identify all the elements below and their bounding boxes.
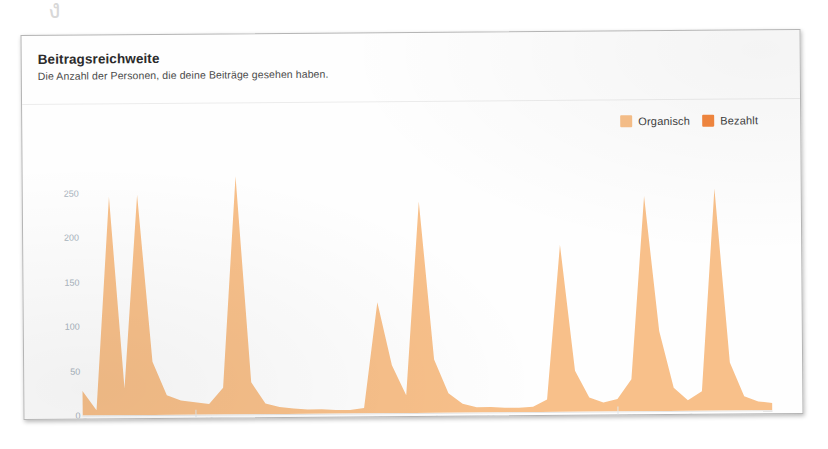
x-axis-tick-29: 23 (486, 413, 496, 419)
x-axis-tick-33: 27 (542, 413, 552, 419)
chart-header: Beitragsreichweite Die Anzahl der Person… (38, 50, 329, 82)
y-axis-tick-150: 150 (64, 277, 79, 287)
area-chart-svg (81, 170, 773, 415)
legend-swatch-icon (702, 115, 714, 127)
y-axis: 050100150200250 (45, 176, 81, 416)
scan-artifact-glyph: ง (48, 0, 62, 29)
x-axis-tick-25: 19 (429, 414, 439, 419)
x-axis-tick-47: 11 (740, 411, 750, 419)
chart-plot-area (81, 170, 773, 415)
x-axis-tick-21: 15 (373, 414, 383, 419)
y-axis-tick-100: 100 (65, 322, 80, 332)
month-separator (195, 410, 196, 419)
header-divider (22, 98, 800, 105)
y-axis-tick-200: 200 (64, 233, 79, 243)
insights-card: Beitragsreichweite Die Anzahl der Person… (21, 29, 804, 420)
y-axis-tick-250: 250 (64, 188, 79, 198)
chart-subtitle: Die Anzahl der Personen, die deine Beitr… (38, 68, 329, 82)
card-inner: Beitragsreichweite Die Anzahl der Person… (22, 30, 803, 419)
y-axis-tick-50: 50 (70, 366, 80, 376)
x-axis-tick-17: 11 (317, 415, 327, 419)
legend-item-bezahlt[interactable]: Bezahlt (702, 114, 758, 126)
x-axis-tick-9: 03 (204, 416, 214, 419)
area-series-organisch (81, 172, 773, 416)
x-axis-tick-13: 07 (261, 415, 271, 419)
legend-label: Organisch (638, 115, 690, 127)
chart-legend: OrganischBezahlt (620, 114, 758, 127)
x-axis-tick-43: 07 (683, 412, 693, 419)
legend-item-organisch[interactable]: Organisch (620, 115, 690, 128)
x-axis-tick-4: 29 (134, 416, 144, 419)
x-axis-tick-0: 25 (77, 417, 87, 419)
month-separator (618, 406, 619, 416)
legend-swatch-icon (620, 115, 632, 127)
x-axis-tick-39: 03 (627, 412, 637, 419)
page-title: Beitragsreichweite (38, 50, 329, 67)
legend-label: Bezahlt (720, 114, 758, 126)
